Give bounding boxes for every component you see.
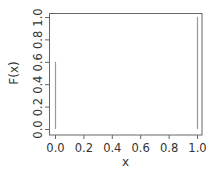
cdf-chart: 0.00.20.40.60.81.0 0.00.20.40.60.81.0 x … [0, 0, 216, 173]
y-axis: 0.00.20.40.60.81.0 [31, 8, 50, 138]
x-tick-label: 0.6 [132, 141, 150, 155]
x-tick-label: 0.8 [160, 141, 178, 155]
y-tick-label: 1.0 [31, 8, 45, 26]
y-axis-title: F(x) [7, 61, 21, 84]
x-axis: 0.00.20.40.60.81.0 [46, 135, 206, 155]
spikes [56, 17, 198, 129]
y-tick-label: 0.8 [31, 31, 45, 49]
y-tick-label: 0.4 [31, 76, 45, 94]
plot-frame [50, 14, 203, 136]
x-tick-label: 0.0 [46, 141, 64, 155]
x-tick-label: 1.0 [188, 141, 206, 155]
x-tick-label: 0.2 [75, 141, 93, 155]
y-tick-label: 0.2 [31, 98, 45, 116]
y-tick-label: 0.0 [31, 120, 45, 138]
x-axis-title: x [122, 155, 129, 169]
x-tick-label: 0.4 [103, 141, 121, 155]
y-tick-label: 0.6 [31, 53, 45, 71]
